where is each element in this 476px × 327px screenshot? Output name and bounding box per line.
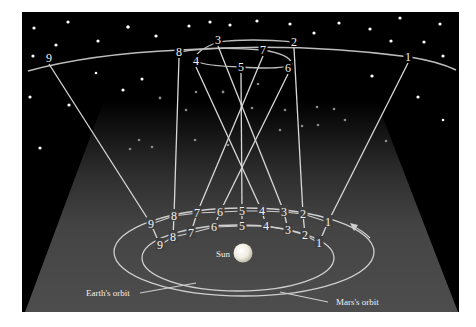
position-number: 2 bbox=[302, 228, 308, 242]
position-number: 9 bbox=[148, 217, 154, 231]
sun-icon bbox=[234, 244, 253, 263]
sun-label: Sun bbox=[216, 249, 231, 259]
position-number: 1 bbox=[316, 236, 322, 250]
position-number: 5 bbox=[239, 204, 245, 218]
position-number: 3 bbox=[215, 33, 221, 47]
position-number: 7 bbox=[188, 226, 194, 240]
position-number: 1 bbox=[325, 215, 331, 229]
mars-orbit-label: Mars's orbit bbox=[336, 297, 379, 307]
retrograde-motion-diagram: Sun Earth's orbit Mars's orbit 123456789… bbox=[0, 0, 476, 327]
position-number: 2 bbox=[291, 35, 297, 49]
position-number: 6 bbox=[217, 205, 223, 219]
position-number: 9 bbox=[157, 238, 163, 252]
position-number: 5 bbox=[238, 60, 244, 74]
position-number: 7 bbox=[194, 206, 200, 220]
position-number: 4 bbox=[263, 219, 269, 233]
position-number: 4 bbox=[193, 54, 199, 68]
position-number: 3 bbox=[281, 205, 287, 219]
position-number: 7 bbox=[260, 43, 266, 57]
position-number: 3 bbox=[285, 223, 291, 237]
position-number: 2 bbox=[300, 207, 306, 221]
position-number: 6 bbox=[285, 61, 291, 75]
position-number: 8 bbox=[171, 209, 177, 223]
position-number: 9 bbox=[46, 51, 52, 65]
earth-orbit-label: Earth's orbit bbox=[86, 288, 130, 298]
position-number: 6 bbox=[211, 220, 217, 234]
position-number: 1 bbox=[405, 50, 411, 64]
position-number: 5 bbox=[239, 219, 245, 233]
position-number: 8 bbox=[176, 45, 182, 59]
position-number: 4 bbox=[259, 204, 265, 218]
position-number: 8 bbox=[170, 230, 176, 244]
